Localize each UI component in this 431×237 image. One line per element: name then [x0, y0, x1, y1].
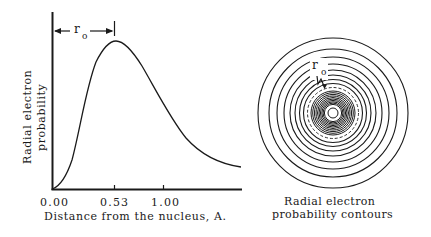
y-axis-label-line2: probability — [35, 83, 48, 151]
x-axis-label: Distance from the nucleus, A. — [44, 210, 227, 223]
x-tick-label-1: 0.53 — [100, 196, 129, 209]
contour-r0-subscript: o — [321, 67, 326, 77]
probability-contours: r o Radial electron probability contours — [258, 38, 408, 221]
nucleus-core — [328, 108, 338, 118]
diagram-canvas: r o Radial electron probability 0.00 0.5… — [0, 0, 431, 237]
probability-curve — [53, 41, 242, 189]
y-axis-label-line1: Radial electron — [21, 70, 34, 164]
contour-r0-symbol: r — [312, 58, 318, 72]
r0-label-symbol: r — [74, 22, 80, 36]
x-tick-label-0: 0.00 — [40, 196, 69, 209]
contour-caption-line1: Radial electron — [284, 195, 375, 208]
radial-probability-plot: r o Radial electron probability 0.00 0.5… — [21, 12, 242, 223]
x-tick-label-2: 1.00 — [151, 196, 180, 209]
r0-label-subscript: o — [82, 31, 87, 41]
contour-caption-line2: probability contours — [272, 208, 393, 221]
